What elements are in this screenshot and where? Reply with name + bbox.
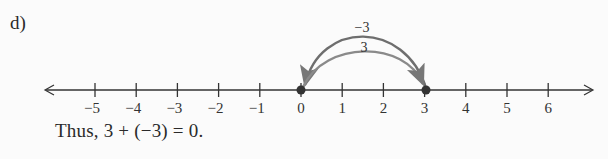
conclusion-text: Thus, 3 + (−3) = 0. bbox=[55, 120, 203, 142]
tick-label: 5 bbox=[503, 100, 511, 116]
arc-plus-3 bbox=[303, 51, 423, 87]
point-3 bbox=[422, 86, 431, 95]
tick-label: −5 bbox=[84, 100, 100, 116]
tick-label: −4 bbox=[125, 100, 141, 116]
tick-label: 0 bbox=[297, 100, 305, 116]
arc-label-plus-3: 3 bbox=[361, 40, 368, 55]
tick-label: 3 bbox=[421, 100, 429, 116]
tick-label: 1 bbox=[338, 100, 346, 116]
tick-label: 6 bbox=[544, 100, 552, 116]
tick-label: 4 bbox=[462, 100, 470, 116]
point-0 bbox=[297, 86, 306, 95]
arc-label-minus-3: −3 bbox=[355, 20, 370, 35]
tick-label: −2 bbox=[208, 100, 224, 116]
tick-labels: −5−4−3−2−10123456 bbox=[84, 100, 552, 116]
tick-label: −1 bbox=[249, 100, 265, 116]
tick-label: −3 bbox=[166, 100, 182, 116]
tick-label: 2 bbox=[380, 100, 388, 116]
number-line-axis bbox=[45, 85, 593, 95]
